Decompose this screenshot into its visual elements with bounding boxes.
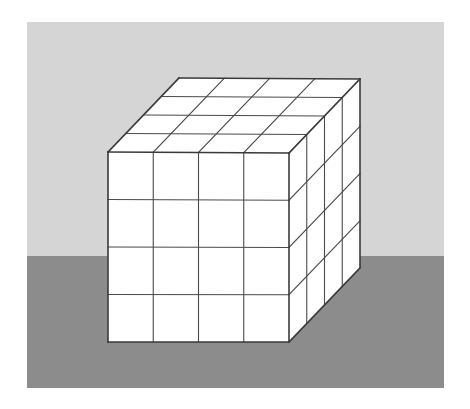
cube-illustration: 4 by 4 by 4 cube of small white blocks r… bbox=[0, 0, 470, 409]
cube-edge-front-top bbox=[108, 152, 289, 153]
figure-root: Four-by-four-by-four stacked unit cube A… bbox=[0, 0, 470, 409]
cube-edge-top-back bbox=[179, 78, 360, 79]
front-face-gridline-horizontal bbox=[108, 247, 289, 248]
